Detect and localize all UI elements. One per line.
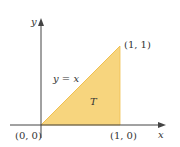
line-label: y = x xyxy=(52,73,79,84)
diagram: y x (1, 1) (0, 0) (1, 0) y = x T xyxy=(0,0,180,147)
point-label-0-0: (0, 0) xyxy=(15,130,42,141)
x-axis-label: x xyxy=(158,129,164,140)
point-label-1-1: (1, 1) xyxy=(124,39,151,50)
y-axis-label: y xyxy=(30,16,37,27)
point-label-1-0: (1, 0) xyxy=(110,130,137,141)
y-axis-arrow-icon xyxy=(38,18,44,26)
x-axis-arrow-icon xyxy=(158,122,166,128)
